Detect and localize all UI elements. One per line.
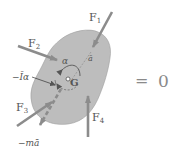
label-inertia-force: −mā (18, 138, 39, 148)
label-a-bar: ā (88, 54, 93, 63)
label-f1: F1 (89, 11, 101, 25)
label-f2: F2 (28, 37, 40, 51)
label-mass-center: G (70, 77, 79, 88)
equals-sign: = (135, 71, 148, 90)
label-inertia-moment: −Īα (12, 71, 29, 82)
equation-rhs: 0 (158, 71, 169, 91)
label-alpha: α (62, 56, 68, 66)
label-f3: F3 (16, 101, 28, 115)
kinetic-diagram: F1 F2 F3 F4 G α ā −Īα −mā = 0 (0, 0, 181, 154)
label-f4: F4 (92, 111, 105, 125)
